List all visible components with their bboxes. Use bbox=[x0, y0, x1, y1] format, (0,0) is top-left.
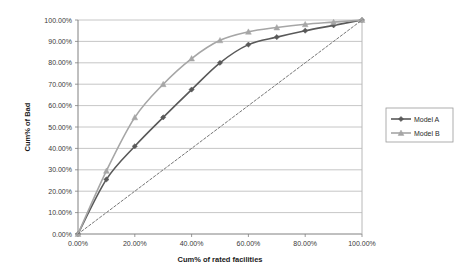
y-tick-label: 90.00% bbox=[48, 38, 72, 45]
cap-curve-chart: 0.00%10.00%20.00%30.00%40.00%50.00%60.00… bbox=[0, 0, 468, 277]
y-tick-label: 20.00% bbox=[48, 188, 72, 195]
y-tick-label: 10.00% bbox=[48, 209, 72, 216]
legend-box bbox=[386, 108, 453, 142]
y-axis-ticks: 0.00%10.00%20.00%30.00%40.00%50.00%60.00… bbox=[44, 17, 78, 238]
x-tick-label: 0.00% bbox=[68, 240, 88, 247]
x-tick-label: 40.00% bbox=[180, 240, 204, 247]
chart-canvas: 0.00%10.00%20.00%30.00%40.00%50.00%60.00… bbox=[0, 0, 468, 277]
x-tick-label: 100.00% bbox=[348, 240, 376, 247]
y-tick-label: 80.00% bbox=[48, 59, 72, 66]
y-tick-label: 40.00% bbox=[48, 145, 72, 152]
y-tick-label: 50.00% bbox=[48, 124, 72, 131]
legend-label-model-b: Model B bbox=[414, 130, 440, 137]
x-tick-label: 60.00% bbox=[237, 240, 261, 247]
legend-label-model-a: Model A bbox=[414, 116, 440, 123]
y-tick-label: 100.00% bbox=[44, 17, 72, 24]
y-tick-label: 70.00% bbox=[48, 81, 72, 88]
chart-legend: Model AModel B bbox=[386, 108, 453, 142]
x-axis-title: Cum% of rated facilities bbox=[177, 255, 262, 264]
x-tick-label: 20.00% bbox=[123, 240, 147, 247]
y-tick-label: 0.00% bbox=[52, 231, 72, 238]
x-tick-label: 80.00% bbox=[293, 240, 317, 247]
y-tick-label: 30.00% bbox=[48, 166, 72, 173]
y-tick-label: 60.00% bbox=[48, 102, 72, 109]
y-axis-title: Cum% of Bad bbox=[23, 102, 32, 151]
x-axis-ticks: 0.00%20.00%40.00%60.00%80.00%100.00% bbox=[68, 234, 376, 247]
